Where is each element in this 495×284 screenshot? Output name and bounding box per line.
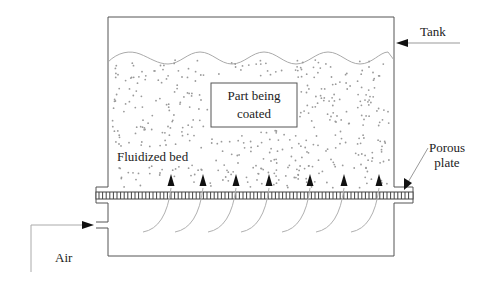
fluidized-bed-label: Fluidized bed [117, 149, 188, 164]
part-label: Part being coated [211, 88, 297, 121]
tank-pointer-arrow [396, 39, 460, 47]
fluidized-bed-diagram [0, 0, 495, 284]
air-flow-arrows [143, 174, 383, 232]
porous-plate [96, 192, 413, 199]
porous-plate-label: Porous plate [424, 140, 470, 170]
porous-plate-label-line1: Porous [424, 140, 470, 155]
tank-label: Tank [420, 24, 446, 39]
part-label-line2: coated [211, 106, 297, 121]
tank-body [96, 17, 413, 256]
porous-plate-label-line2: plate [424, 155, 470, 170]
bed-surface-wave [108, 52, 394, 64]
part-label-line1: Part being [211, 88, 297, 103]
air-label: Air [55, 250, 72, 265]
